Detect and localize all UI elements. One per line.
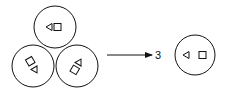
circle-bottom-left <box>12 45 54 87</box>
triangle-icon <box>31 66 40 75</box>
triangle-icon <box>46 24 52 31</box>
square-icon <box>54 24 61 31</box>
triangle-icon <box>75 57 84 66</box>
multiplier-label: 3 <box>155 49 161 61</box>
circle-bottom-right <box>56 45 98 87</box>
square-icon <box>199 52 206 59</box>
square-icon <box>70 65 80 75</box>
circle-top <box>34 6 76 48</box>
square-icon <box>25 56 35 66</box>
diagram-canvas: 3 <box>0 0 226 95</box>
triangle-icon <box>183 52 189 59</box>
circle-result <box>175 35 215 75</box>
